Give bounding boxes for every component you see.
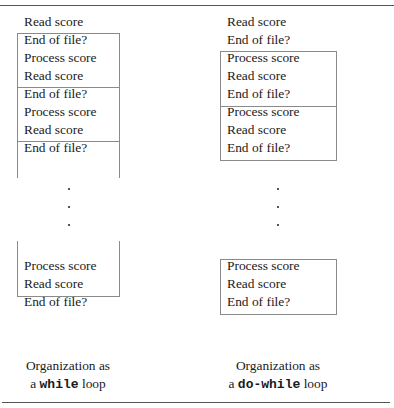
step-end-of-file: End of file? <box>227 139 290 157</box>
step-read-score: Read score <box>227 275 286 293</box>
code-keyword-while: while <box>40 377 79 392</box>
while-caption: Organization as a while loop <box>17 357 119 394</box>
step-end-of-file: End of file? <box>24 85 87 103</box>
loop-side-right <box>119 241 120 297</box>
caption-suffix: loop <box>79 376 106 391</box>
loop-side-left <box>17 33 18 178</box>
caption-line2: a while loop <box>17 375 119 394</box>
ellipsis-dot <box>68 188 70 190</box>
step-end-of-file: End of file? <box>24 293 87 311</box>
step-read-score: Read score <box>24 121 83 139</box>
step-process-score: Process score <box>24 49 97 67</box>
step-end-of-file: End of file? <box>24 139 87 157</box>
step-process-score: Process score <box>24 103 97 121</box>
caption-line2: a do-while loop <box>206 375 350 394</box>
step-end-of-file: End of file? <box>227 31 290 49</box>
step-end-of-file: End of file? <box>24 31 87 49</box>
step-end-of-file: End of file? <box>227 293 290 311</box>
caption-suffix: loop <box>300 376 327 391</box>
caption-prefix: a <box>229 376 238 391</box>
step-read-score: Read score <box>24 67 83 85</box>
step-process-score: Process score <box>24 257 97 275</box>
caption-prefix: a <box>30 376 39 391</box>
step-read-score: Read score <box>227 121 286 139</box>
ellipsis-dot <box>68 206 70 208</box>
code-keyword-do-while: do-while <box>238 377 300 392</box>
ellipsis-dot <box>277 206 279 208</box>
ellipsis-dot <box>277 224 279 226</box>
step-process-score: Process score <box>227 257 300 275</box>
ellipsis-dot <box>68 224 70 226</box>
step-read-score: Read score <box>227 13 286 31</box>
step-read-score: Read score <box>227 67 286 85</box>
ellipsis-dot <box>277 188 279 190</box>
top-rule <box>0 5 394 6</box>
do-while-caption: Organization as a do-while loop <box>206 357 350 394</box>
caption-line1: Organization as <box>206 357 350 375</box>
step-read-score: Read score <box>24 275 83 293</box>
step-process-score: Process score <box>227 103 300 121</box>
bottom-rule <box>2 402 390 403</box>
step-process-score: Process score <box>227 49 300 67</box>
caption-line1: Organization as <box>17 357 119 375</box>
loop-side-left <box>17 241 18 297</box>
step-read-score: Read score <box>24 13 83 31</box>
loop-side-right <box>119 33 120 178</box>
step-end-of-file: End of file? <box>227 85 290 103</box>
